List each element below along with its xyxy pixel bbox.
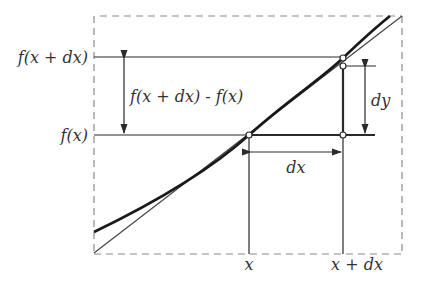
function-curve bbox=[94, 16, 390, 232]
label-difference: f(x + dx) - f(x) bbox=[129, 87, 243, 106]
label-dy: dy bbox=[371, 91, 391, 110]
label-dx: dx bbox=[286, 158, 305, 177]
point-x-fx bbox=[246, 132, 252, 138]
label-f-x-plus-dx: f(x + dx) bbox=[17, 48, 88, 67]
differential-diagram: f(x + dx) f(x) f(x + dx) - f(x) dy dx x … bbox=[0, 0, 428, 293]
label-x-plus-dx: x + dx bbox=[331, 255, 383, 274]
point-xdx-fx bbox=[340, 132, 346, 138]
label-x: x bbox=[244, 255, 253, 274]
point-xdx-fxdx bbox=[340, 55, 346, 61]
point-xdx-tangent bbox=[340, 63, 346, 69]
label-f-x: f(x) bbox=[60, 126, 88, 145]
